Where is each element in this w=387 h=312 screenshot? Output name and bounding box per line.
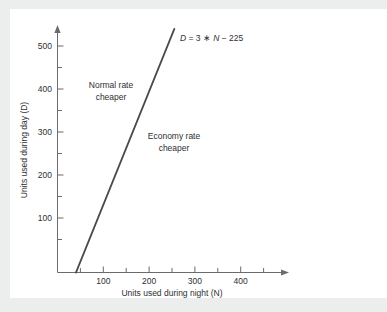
normal-rate-line1: Normal rate (89, 80, 134, 90)
x-axis: 100 200 300 400 Units used during night … (58, 267, 290, 299)
y-tick-label-200: 200 (38, 170, 52, 180)
x-axis-arrowhead (281, 269, 289, 275)
x-tick-label-300: 300 (188, 276, 202, 286)
y-tick-label-300: 300 (38, 127, 52, 137)
y-axis-arrowhead (54, 25, 60, 33)
y-tick-label-500: 500 (38, 41, 52, 51)
y-axis-title: Units used during day (D) (19, 102, 29, 199)
annotation-equation: D = 3 ∗ N − 225 (180, 33, 244, 43)
screenshot-root: 100 200 300 400 500 Units used during da… (0, 0, 387, 312)
x-axis-title: Units used during night (N) (121, 288, 222, 298)
x-tick-label-100: 100 (96, 276, 110, 286)
x-tick-label-200: 200 (142, 276, 156, 286)
y-tick-label-100: 100 (38, 213, 52, 223)
annotation-economy-rate: Economy rate cheaper (148, 131, 201, 153)
equation-text: D = 3 ∗ N − 225 (180, 33, 244, 43)
y-tick-label-400: 400 (38, 84, 52, 94)
x-tick-label-400: 400 (234, 276, 248, 286)
normal-rate-line2: cheaper (96, 92, 127, 102)
y-axis: 100 200 300 400 500 Units used during da… (19, 25, 64, 273)
economy-rate-line2: cheaper (159, 143, 190, 153)
equation-part-equals: = 3 (186, 33, 203, 43)
chart-canvas: 100 200 300 400 500 Units used during da… (0, 0, 387, 312)
equation-part-minus: − 225 (219, 33, 243, 43)
annotation-normal-rate: Normal rate cheaper (89, 80, 134, 102)
economy-rate-line1: Economy rate (148, 131, 201, 141)
equation-part-star: ∗ (203, 33, 211, 43)
